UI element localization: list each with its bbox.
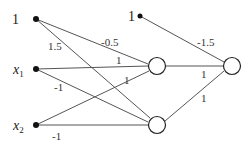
- weight-x2-h1: 1: [124, 74, 130, 86]
- weight-x1-h2: -1: [54, 81, 63, 93]
- input-node-bias1: [33, 16, 39, 22]
- neural-network-diagram: 1 x1 x2 1 -0.5 1.5 1 1 -1 -1 -1.5 1 1: [0, 0, 252, 145]
- hidden-neuron-2: [149, 117, 166, 134]
- weight-h2-out: 1: [201, 92, 207, 104]
- weight-bias1-h1: -0.5: [101, 36, 119, 48]
- edge-x1-h1: [36, 66, 148, 69]
- label-bias1: 1: [12, 12, 19, 27]
- label-x1: x1: [12, 62, 24, 79]
- hidden-neuron-1: [149, 58, 166, 75]
- label-x2: x2: [12, 118, 24, 135]
- input-node-x1: [33, 66, 39, 72]
- weight-x1-h1: 1: [116, 54, 122, 66]
- edge-x2-h1: [36, 71, 149, 125]
- weight-bias1-h2: 1.5: [48, 40, 62, 52]
- output-neuron: [224, 58, 241, 75]
- edge-h2-out: [165, 71, 224, 121]
- input-node-bias2: [138, 14, 143, 19]
- label-bias2: 1: [128, 9, 135, 24]
- weight-bias2-out: -1.5: [197, 36, 215, 48]
- edge-x1-h2: [36, 69, 148, 122]
- weight-h1-out: 1: [201, 68, 207, 80]
- weight-x2-h2: -1: [52, 130, 61, 142]
- input-node-x2: [33, 122, 39, 128]
